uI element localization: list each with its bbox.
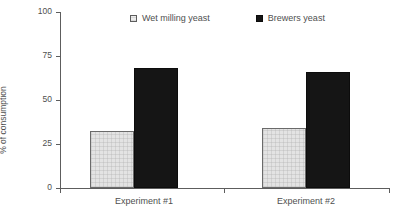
x-tick-start [60,189,61,193]
plot-area [60,12,390,188]
y-tick-label-0: 0 [22,183,52,192]
x-category-label-experiment-2: Experiment #2 [256,196,356,206]
bar-brewers-yeast-experiment-2 [306,72,350,188]
legend: Wet milling yeast Brewers yeast [130,14,325,23]
x-category-label-experiment-1: Experiment #1 [94,196,194,206]
legend-entry-brewers-yeast: Brewers yeast [256,14,325,23]
y-axis-title-text: % of consumption [0,55,8,185]
legend-label-wet-milling-yeast: Wet milling yeast [142,14,210,23]
legend-label-brewers-yeast: Brewers yeast [268,14,325,23]
bar-chart: % of consumption 100 75 50 25 0 Experime… [0,0,409,220]
filled-square-dark-icon [256,15,263,22]
y-tick-label-100: 100 [22,7,52,16]
x-axis-line [60,188,390,189]
y-tick-label-75: 75 [22,51,52,60]
open-square-light-icon [130,15,137,22]
y-tick-label-50: 50 [22,95,52,104]
bar-wet-milling-yeast-experiment-2 [262,128,306,188]
legend-entry-wet-milling-yeast: Wet milling yeast [130,14,210,23]
bar-wet-milling-yeast-experiment-1 [90,131,134,188]
x-tick-end [389,189,390,193]
bar-brewers-yeast-experiment-1 [134,68,178,188]
x-tick-mid [224,189,225,193]
y-tick-label-25: 25 [22,139,52,148]
